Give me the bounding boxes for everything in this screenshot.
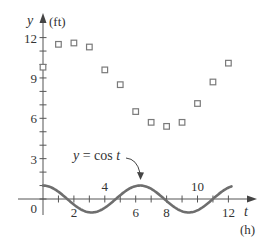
x-tick-label: 4 (102, 179, 109, 194)
data-point (117, 82, 123, 88)
x-axis-unit-label: (h) (240, 222, 255, 237)
y-tick-label: 3 (31, 152, 38, 167)
data-point (102, 67, 108, 73)
x-tick-label: 12 (222, 205, 235, 220)
y-tick-label: 12 (24, 31, 37, 46)
data-point (87, 44, 93, 50)
data-point (210, 79, 216, 85)
y-axis-variable-label: y (25, 13, 34, 28)
data-point (71, 40, 77, 46)
x-tick-label: 8 (163, 205, 170, 220)
y-axis-arrow-icon (40, 13, 47, 23)
x-axis-arrow-icon (247, 196, 257, 203)
x-tick-label: 6 (132, 205, 139, 220)
data-points (40, 40, 231, 129)
data-point (56, 42, 62, 48)
data-point (164, 124, 170, 130)
data-point (148, 120, 154, 126)
data-point (179, 120, 185, 126)
curve-label-t: t (116, 148, 121, 163)
data-point (40, 64, 46, 70)
data-point (195, 101, 201, 107)
x-tick-label: 10 (191, 179, 204, 194)
y-tick-label: 0 (31, 201, 38, 216)
data-point (133, 109, 139, 115)
annotation-arrowhead-icon (137, 172, 144, 180)
annotation-arrow (126, 158, 140, 173)
curve-label-eq: = cos (79, 148, 116, 163)
tick-labels: 24681012036912 (24, 31, 235, 220)
y-tick-label: 9 (31, 71, 38, 86)
chart: y (ft) t (h) 24681012036912 y = cos t (0, 0, 260, 245)
data-point (226, 60, 232, 66)
y-tick-label: 6 (31, 111, 38, 126)
curve-label: y = cos t (71, 148, 121, 163)
y-axis-unit-label: (ft) (49, 14, 66, 29)
x-axis-variable-label: t (244, 204, 249, 219)
